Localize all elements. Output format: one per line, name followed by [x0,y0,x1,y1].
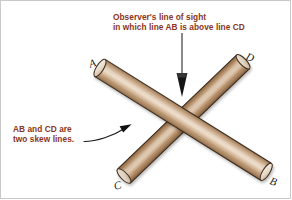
skew-note-line-2: two skew lines. [13,134,74,144]
skew-lines-note: AB and CD are two skew lines. [13,124,74,144]
observer-line-of-sight-note: Observer's line of sight in which line A… [113,12,245,32]
skew-note-line-1: AB and CD are [13,124,74,134]
sight-line-arrow-icon [177,33,188,97]
observer-note-line-2: in which line AB is above line CD [113,22,245,32]
skew-lines-figure: Observer's line of sight in which line A… [0,0,292,200]
observer-note-line-1: Observer's line of sight [113,12,245,22]
skew-note-arrow-icon [84,124,132,141]
